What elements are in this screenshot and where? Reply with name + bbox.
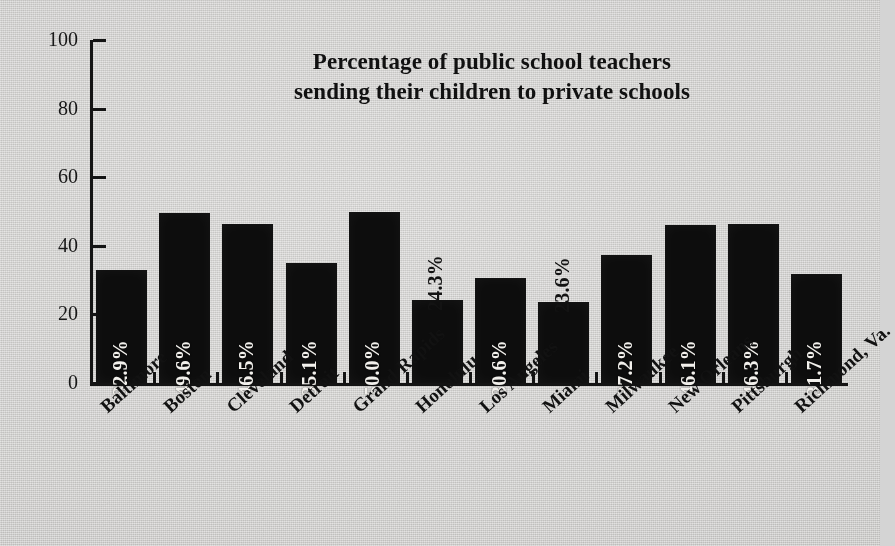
y-axis-tick-label: 0: [18, 372, 78, 392]
y-axis-tick-label: 80: [18, 98, 78, 118]
y-axis-line: [90, 40, 93, 386]
y-axis-tick-label: 40: [18, 235, 78, 255]
chart-title-line-2: sending their children to private school…: [196, 77, 788, 107]
x-axis-tick: [216, 372, 219, 383]
bar-value-label-outside: 23.6%: [551, 257, 574, 313]
chart-title: Percentage of public school teachers sen…: [196, 47, 788, 108]
y-axis-tick-label: 60: [18, 166, 78, 186]
chart-title-line-1: Percentage of public school teachers: [196, 47, 788, 77]
x-axis-tick: [595, 372, 598, 383]
y-axis-tick: [93, 39, 106, 42]
y-axis-tick: [93, 108, 106, 111]
x-axis-tick: [343, 372, 346, 383]
y-axis-tick-label: 100: [18, 29, 78, 49]
y-axis-tick-label: 20: [18, 303, 78, 323]
bar-value-label-outside: 24.3%: [424, 255, 447, 311]
y-axis-tick: [93, 176, 106, 179]
y-axis-tick: [93, 245, 106, 248]
